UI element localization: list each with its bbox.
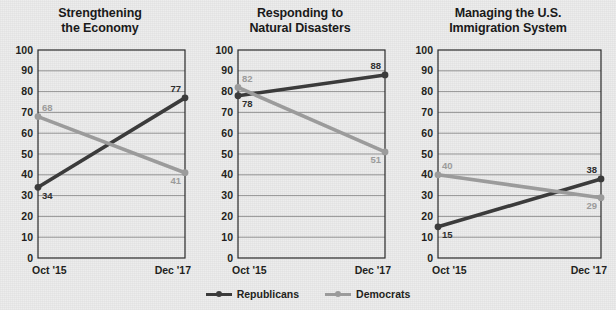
chart-panel-economy: Strengthening the Economy 10090807060504… [0, 0, 200, 280]
y-axis-tick-label: 70 [21, 106, 33, 118]
data-label-democrats: 41 [170, 175, 181, 186]
chart-legend: Republicans Democrats [0, 284, 616, 304]
data-point-republicans[interactable] [382, 72, 389, 79]
y-axis-tick-label: 30 [221, 189, 233, 201]
y-axis-tick-label: 70 [221, 106, 233, 118]
y-axis-tick-label: 0 [227, 252, 233, 264]
data-label-republicans: 38 [586, 164, 597, 175]
line-chart-disasters: 1009080706050403020100Oct '15Dec '177888… [200, 0, 400, 280]
y-axis-tick-label: 20 [21, 210, 33, 222]
data-point-republicans[interactable] [235, 92, 242, 99]
data-point-democrats[interactable] [598, 194, 605, 201]
y-axis-tick-label: 80 [21, 85, 33, 97]
legend-item-republicans[interactable]: Republicans [206, 288, 299, 300]
y-axis-tick-label: 10 [421, 231, 433, 243]
data-point-republicans[interactable] [435, 223, 442, 230]
y-axis-tick-label: 40 [21, 168, 33, 180]
data-point-republicans[interactable] [598, 176, 605, 183]
x-axis-tick-label-start: Oct '15 [32, 264, 67, 276]
legend-label-republicans: Republicans [237, 288, 299, 300]
data-label-republicans: 15 [442, 229, 453, 240]
legend-swatch-democrats-icon [325, 290, 351, 299]
data-point-republicans[interactable] [182, 94, 189, 101]
data-label-democrats: 40 [442, 160, 453, 171]
y-axis-tick-label: 60 [221, 127, 233, 139]
chart-panel-disasters: Responding to Natural Disasters 10090807… [200, 0, 400, 280]
plot-area-immigration: 1009080706050403020100Oct '15Dec '171538… [400, 0, 616, 280]
x-axis-tick-label-end: Dec '17 [571, 264, 608, 276]
y-axis-tick-label: 60 [421, 127, 433, 139]
data-label-republicans: 78 [242, 98, 253, 109]
plot-area-disasters: 1009080706050403020100Oct '15Dec '177888… [200, 0, 400, 280]
x-axis-tick-label-start: Oct '15 [232, 264, 267, 276]
data-label-democrats: 29 [586, 200, 597, 211]
data-point-democrats[interactable] [235, 84, 242, 91]
plot-area-economy: 1009080706050403020100Oct '15Dec '173477… [0, 0, 200, 280]
line-chart-economy: 1009080706050403020100Oct '15Dec '173477… [0, 0, 200, 280]
y-axis-tick-label: 20 [221, 210, 233, 222]
data-point-democrats[interactable] [182, 169, 189, 176]
data-point-democrats[interactable] [35, 113, 42, 120]
y-axis-tick-label: 40 [421, 168, 433, 180]
y-axis-tick-label: 20 [421, 210, 433, 222]
y-axis-tick-label: 50 [221, 148, 233, 160]
y-axis-tick-label: 50 [21, 148, 33, 160]
x-axis-tick-label-end: Dec '17 [155, 264, 192, 276]
y-axis-tick-label: 80 [221, 85, 233, 97]
legend-item-democrats[interactable]: Democrats [325, 288, 410, 300]
y-axis-tick-label: 100 [15, 44, 33, 56]
y-axis-tick-label: 50 [421, 148, 433, 160]
data-label-democrats: 82 [242, 73, 253, 84]
legend-swatch-republicans-icon [206, 290, 232, 299]
data-point-democrats[interactable] [435, 171, 442, 178]
data-label-republicans: 77 [170, 83, 181, 94]
y-axis-tick-label: 90 [421, 64, 433, 76]
y-axis-tick-label: 100 [215, 44, 233, 56]
y-axis-tick-label: 10 [21, 231, 33, 243]
y-axis-tick-label: 30 [421, 189, 433, 201]
legend-label-democrats: Democrats [356, 288, 410, 300]
y-axis-tick-label: 60 [21, 127, 33, 139]
y-axis-tick-label: 90 [21, 64, 33, 76]
y-axis-tick-label: 80 [421, 85, 433, 97]
x-axis-tick-label-start: Oct '15 [432, 264, 467, 276]
series-line-republicans [238, 75, 385, 96]
chart-panel-immigration: Managing the U.S. Immigration System 100… [400, 0, 616, 280]
y-axis-tick-label: 70 [421, 106, 433, 118]
chart-panel-group: Strengthening the Economy 10090807060504… [0, 0, 616, 280]
y-axis-tick-label: 30 [21, 189, 33, 201]
data-label-republicans: 34 [42, 190, 53, 201]
line-chart-immigration: 1009080706050403020100Oct '15Dec '171538… [400, 0, 616, 280]
y-axis-tick-label: 0 [427, 252, 433, 264]
y-axis-tick-label: 100 [415, 44, 433, 56]
series-line-republicans [38, 98, 185, 187]
data-point-democrats[interactable] [382, 149, 389, 156]
series-line-democrats [38, 117, 185, 173]
y-axis-tick-label: 40 [221, 168, 233, 180]
series-line-democrats [238, 87, 385, 151]
data-label-democrats: 68 [42, 102, 53, 113]
y-axis-tick-label: 10 [221, 231, 233, 243]
data-label-republicans: 88 [370, 60, 381, 71]
x-axis-tick-label-end: Dec '17 [355, 264, 392, 276]
data-label-democrats: 51 [370, 154, 381, 165]
data-point-republicans[interactable] [35, 184, 42, 191]
y-axis-tick-label: 90 [221, 64, 233, 76]
y-axis-tick-label: 0 [27, 252, 33, 264]
